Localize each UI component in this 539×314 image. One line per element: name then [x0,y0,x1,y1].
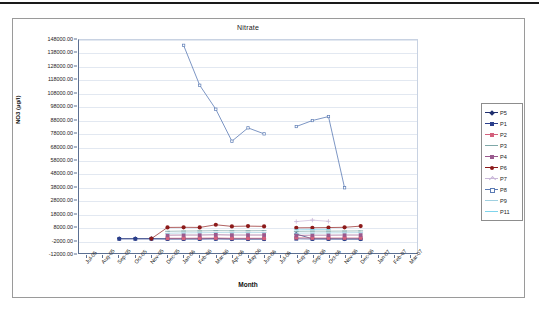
legend-label: P4 [498,154,507,160]
data-point-marker [327,233,331,237]
y-axis-tick [74,133,77,134]
legend-swatch-icon [485,185,498,194]
y-axis-tick-label: 108000.00 [48,90,73,96]
legend-item-p3[interactable]: P3 [485,140,520,151]
x-axis-title: Month [78,281,418,288]
data-series [165,231,363,232]
legend-item-p4[interactable]: P4 [485,151,520,162]
data-point-marker [230,224,234,228]
legend-label: P5 [498,110,507,116]
y-axis-tick [74,106,77,107]
y-axis-tick-label: 98000.00 [51,103,73,109]
data-point-marker [230,233,234,237]
legend-swatch-icon [485,174,498,183]
data-point-marker [310,218,314,222]
chart-screenshot: Nitrate NO3 (µg/l) 148000.00138000.00128… [0,0,539,314]
legend-item-p9[interactable]: P9 [485,195,520,206]
data-series-layer [79,40,417,253]
data-point-marker [182,225,186,229]
y-axis-tick [74,79,77,80]
y-axis-tick-label: 138000.00 [48,49,73,55]
y-axis-tick-label: 78000.00 [51,130,73,136]
legend-item-p6[interactable]: P6 [485,162,520,173]
y-axis-tick-label: 128000.00 [48,63,73,69]
legend-item-p11[interactable]: P11 [485,206,520,217]
y-axis-tick [74,159,77,160]
legend-label: P2 [498,132,507,138]
chart-legend: P5P1P2P3P4P6P7P8P9P11 [481,103,523,221]
page-top-rule [0,2,539,4]
legend-swatch-icon [485,207,498,216]
legend-swatch-icon [485,130,498,139]
data-point-marker [231,140,233,142]
y-axis-tick-label: 68000.00 [51,144,73,150]
y-axis-tick-label: 8000.00 [54,224,74,230]
y-axis-tick-label: 118000.00 [48,76,73,82]
data-point-marker [214,223,218,227]
y-axis-tick-label: 88000.00 [51,117,73,123]
plot-area [78,39,418,254]
data-point-marker [214,233,218,237]
chart-title: Nitrate [13,24,483,31]
legend-item-p2[interactable]: P2 [485,129,520,140]
series-line [296,117,344,188]
data-point-marker [246,224,250,228]
data-point-marker [343,233,347,237]
data-point-marker [342,225,346,229]
legend-label: P1 [498,121,507,127]
legend-swatch-icon [485,163,498,172]
y-axis-tick-label: 38000.00 [51,184,73,190]
data-point-marker [149,237,153,241]
y-axis-tick-label: 18000.00 [51,211,73,217]
y-axis-tick [74,254,77,255]
data-point-marker [246,233,250,237]
y-axis-tick [74,200,77,201]
data-point-marker [117,237,121,241]
data-point-marker [182,233,186,237]
data-series [117,237,362,241]
legend-swatch-icon [485,141,498,150]
data-point-marker [262,233,266,237]
data-point-marker [294,219,298,223]
data-point-marker [182,44,184,46]
data-point-marker [295,125,297,127]
data-point-marker [294,226,298,230]
legend-swatch-icon [485,152,498,161]
legend-label: P9 [498,198,507,204]
y-axis-tick-label: -12000.00 [49,251,73,257]
y-axis-tick-label: 28000.00 [51,197,73,203]
y-axis-labels: 148000.00138000.00128000.00118000.001080… [13,39,77,254]
data-point-marker [326,219,330,223]
data-point-marker [310,233,314,237]
data-point-marker [133,237,137,241]
series-line [184,45,264,141]
data-point-marker [198,225,202,229]
data-series [166,233,363,237]
y-axis-tick [74,52,77,53]
data-point-marker [359,233,363,237]
data-point-marker [263,133,265,135]
data-series [182,44,345,189]
data-point-marker [215,108,217,110]
legend-item-p5[interactable]: P5 [485,107,520,118]
y-axis-tick-label: 48000.00 [51,170,73,176]
data-point-marker [294,234,298,238]
y-axis-tick [74,39,77,40]
legend-label: P3 [498,143,507,149]
y-axis-tick [74,119,77,120]
y-axis-tick-label: 148000.00 [48,36,73,42]
data-point-marker [343,187,345,189]
legend-item-p1[interactable]: P1 [485,118,520,129]
data-point-marker [198,233,202,237]
data-point-marker [327,115,329,117]
legend-label: P7 [498,176,507,182]
legend-item-p7[interactable]: P7 [485,173,520,184]
y-axis-tick [74,213,77,214]
legend-swatch-icon [485,119,498,128]
data-series [294,218,331,224]
data-point-marker [166,233,170,237]
y-axis-tick-label: -2000.00 [52,238,73,244]
legend-label: P11 [498,209,510,215]
legend-item-p8[interactable]: P8 [485,184,520,195]
data-point-marker [326,225,330,229]
